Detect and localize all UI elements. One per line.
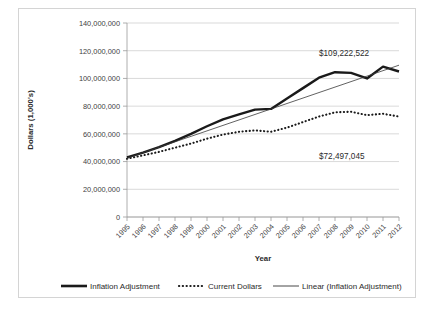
x-tick-label: 2005 (274, 222, 292, 240)
y-tick-label: 120,000,000 (79, 47, 120, 56)
x-axis-ticks: 1995199619971998199920002001200220032004… (114, 217, 404, 240)
x-tick-label: 2007 (306, 222, 324, 240)
legend-item: Current Dollars (179, 282, 262, 291)
x-tick-label: 1997 (146, 222, 164, 240)
y-axis-title: Dollars (1,000's) (26, 90, 35, 150)
y-tick-label: 80,000,000 (83, 102, 120, 111)
line-chart: 020,000,00040,000,00060,000,00080,000,00… (19, 9, 415, 297)
y-tick-label: 20,000,000 (83, 185, 120, 194)
y-tick-label: 60,000,000 (83, 130, 120, 139)
data-label: $72,497,045 (319, 152, 365, 161)
data-series (127, 65, 399, 159)
x-tick-label: 2003 (242, 222, 260, 240)
x-tick-label: 2011 (370, 222, 388, 240)
x-tick-label: 2000 (194, 222, 212, 240)
y-tick-label: 140,000,000 (79, 19, 120, 28)
y-tick-label: 100,000,000 (79, 74, 120, 83)
legend-item: Inflation Adjustment (61, 282, 161, 291)
legend-label: Current Dollars (208, 282, 262, 291)
y-axis-ticks: 020,000,00040,000,00060,000,00080,000,00… (79, 19, 127, 222)
series-line (127, 65, 399, 158)
legend-item: Linear (Inflation Adjustment) (273, 282, 402, 291)
x-tick-label: 2001 (210, 222, 228, 240)
x-tick-label: 2004 (258, 222, 276, 240)
data-label: $109,222,522 (319, 49, 370, 58)
x-tick-label: 2012 (386, 222, 404, 240)
x-tick-label: 1996 (130, 222, 148, 240)
y-tick-label: 0 (116, 213, 120, 222)
chart-legend: Inflation AdjustmentCurrent DollarsLinea… (61, 282, 402, 291)
x-tick-label: 2009 (338, 222, 356, 240)
x-tick-label: 1999 (178, 222, 196, 240)
legend-label: Inflation Adjustment (90, 282, 161, 291)
x-tick-label: 2002 (226, 222, 244, 240)
x-tick-label: 2008 (322, 222, 340, 240)
chart-container: 020,000,00040,000,00060,000,00080,000,00… (18, 8, 416, 298)
x-tick-label: 2006 (290, 222, 308, 240)
x-axis-title: Year (255, 254, 271, 263)
legend-label: Linear (Inflation Adjustment) (302, 282, 402, 291)
x-tick-label: 2010 (354, 222, 372, 240)
x-tick-label: 1995 (114, 222, 132, 240)
x-tick-label: 1998 (162, 222, 180, 240)
y-tick-label: 40,000,000 (83, 157, 120, 166)
data-annotations: $109,222,522$72,497,045 (319, 49, 370, 161)
